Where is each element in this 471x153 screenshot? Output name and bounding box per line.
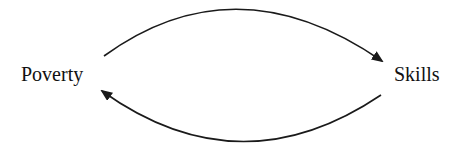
- node-skills: Skills: [394, 64, 440, 84]
- edge-skills-to-poverty: [102, 91, 381, 142]
- edge-poverty-to-skills: [104, 9, 382, 61]
- causal-loop-diagram: Poverty Skills: [0, 0, 471, 153]
- node-poverty: Poverty: [21, 64, 83, 84]
